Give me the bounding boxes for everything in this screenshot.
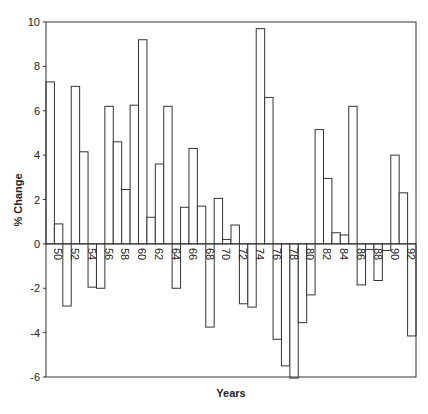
x-tick-label: 62 — [153, 248, 165, 260]
x-tick-label: 50 — [52, 248, 64, 260]
bar-85 — [340, 235, 348, 244]
x-tick-label: 64 — [170, 248, 182, 260]
y-tick-label: 2 — [34, 194, 40, 206]
bar-71 — [223, 239, 231, 243]
x-tick-label: 90 — [389, 248, 401, 260]
x-tick-label: 72 — [237, 248, 249, 260]
y-axis-ticks: -6-4-20246810 — [28, 16, 46, 383]
bar-64 — [164, 106, 172, 244]
bar-86 — [349, 106, 357, 244]
y-tick-label: -2 — [30, 282, 40, 294]
x-tick-label: 80 — [304, 248, 316, 260]
y-tick-label: 0 — [34, 238, 40, 250]
x-tick-label: 54 — [86, 248, 98, 260]
bar-91 — [391, 155, 399, 244]
y-tick-label: 8 — [34, 60, 40, 72]
x-tick-label: 82 — [321, 248, 333, 260]
bar-63 — [155, 164, 163, 244]
bar-84 — [332, 233, 340, 244]
bar-68 — [197, 206, 205, 244]
bar-60 — [130, 105, 138, 244]
bar-72 — [231, 225, 239, 244]
bar-92 — [399, 193, 407, 244]
bar-62 — [147, 217, 155, 244]
bar-78 — [281, 244, 289, 366]
y-tick-label: 6 — [34, 105, 40, 117]
bar-57 — [105, 106, 113, 244]
plot-frame — [46, 22, 416, 377]
x-axis-tick-labels: 5052545658606264666870727476788082848688… — [52, 248, 417, 260]
y-tick-label: -4 — [30, 327, 40, 339]
bar-79 — [290, 244, 298, 378]
bar-67 — [189, 148, 197, 243]
bar-70 — [214, 198, 222, 243]
x-axis-title: Years — [216, 387, 245, 399]
x-tick-label: 74 — [254, 248, 266, 260]
bar-66 — [181, 207, 189, 244]
y-axis-title: % Change — [12, 173, 24, 226]
x-tick-label: 70 — [220, 248, 232, 260]
bar-61 — [139, 40, 147, 244]
bar-82 — [315, 130, 323, 244]
x-tick-label: 56 — [103, 248, 115, 260]
x-tick-label: 78 — [288, 248, 300, 260]
x-tick-label: 68 — [204, 248, 216, 260]
x-tick-label: 86 — [355, 248, 367, 260]
x-tick-label: 76 — [271, 248, 283, 260]
bar-chart: -6-4-20246810 50525456586062646668707274… — [0, 0, 428, 414]
bar-75 — [256, 29, 264, 244]
y-tick-label: 10 — [28, 16, 40, 28]
bar-51 — [54, 224, 62, 244]
bar-54 — [80, 152, 88, 244]
bar-50 — [46, 82, 54, 244]
bar-53 — [71, 86, 79, 244]
x-tick-label: 84 — [338, 248, 350, 260]
bar-83 — [324, 178, 332, 243]
x-tick-label: 66 — [187, 248, 199, 260]
x-tick-label: 58 — [119, 248, 131, 260]
x-tick-label: 60 — [136, 248, 148, 260]
y-tick-label: 4 — [34, 149, 40, 161]
bar-58 — [113, 142, 121, 244]
bar-76 — [265, 97, 273, 243]
y-tick-label: -6 — [30, 371, 40, 383]
bars — [46, 29, 416, 378]
x-tick-label: 88 — [372, 248, 384, 260]
bar-59 — [122, 190, 130, 244]
x-tick-label: 52 — [69, 248, 81, 260]
